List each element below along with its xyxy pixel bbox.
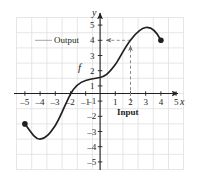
x-tick-label-2: 2 <box>128 98 133 107</box>
x-tick-label-neg4: –4 <box>35 98 44 107</box>
curve-endpoint-right <box>158 38 164 44</box>
y-tick-label-neg4: –4 <box>87 143 96 152</box>
x-tick-label-neg5: –5 <box>20 98 29 107</box>
x-tick-label-3: 3 <box>144 98 149 107</box>
y-tick-label-1: 1 <box>90 82 95 91</box>
y-tick-label-neg5: –5 <box>87 158 96 167</box>
graph-canvas <box>0 0 199 189</box>
y-tick-label-neg1: –1 <box>87 97 96 106</box>
function-graph-figure: –5 –4 –3 –2 –1 1 2 3 4 5 5 4 3 2 1 –1 –2… <box>0 0 199 189</box>
x-tick-label-neg3: –3 <box>51 98 60 107</box>
y-tick-label-2: 2 <box>90 67 95 76</box>
y-tick-label-3: 3 <box>90 52 95 61</box>
y-axis-label: y <box>92 8 96 18</box>
guide-lines <box>35 40 131 101</box>
y-tick-label-neg2: –2 <box>87 112 96 121</box>
y-tick-label-4: 4 <box>90 36 95 45</box>
x-tick-label-4: 4 <box>159 98 164 107</box>
curve-label-f: f <box>78 62 81 73</box>
y-tick-label-neg3: –3 <box>87 128 96 137</box>
x-axis-label: x <box>180 97 184 107</box>
output-annotation-label: Output <box>54 36 79 45</box>
input-annotation-label: Input <box>117 108 139 117</box>
x-tick-label-5: 5 <box>174 98 179 107</box>
curve-endpoint-left <box>22 121 28 127</box>
x-tick-label-1: 1 <box>113 98 118 107</box>
x-tick-label-neg2: –2 <box>66 98 75 107</box>
y-tick-label-5: 5 <box>90 21 95 30</box>
